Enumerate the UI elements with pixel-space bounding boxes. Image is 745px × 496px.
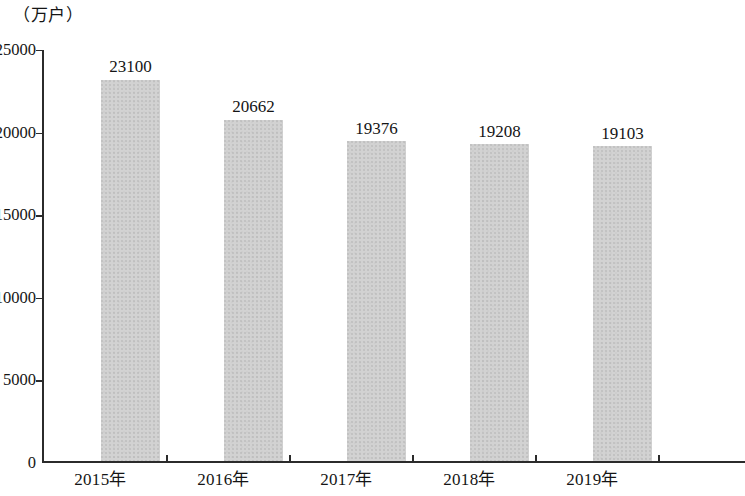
y-tick-label-25000: 25000: [0, 42, 36, 58]
y-tick-label-0: 0: [28, 455, 36, 471]
y-tick-label-20000: 20000: [0, 125, 36, 141]
bar-value-2016: 20662: [204, 98, 303, 116]
bar-value-2019: 19103: [573, 125, 672, 143]
x-category-label-2015: 2015年: [51, 470, 150, 490]
x-axis-line: [42, 461, 745, 463]
y-tick-label-5000: 5000: [3, 372, 36, 388]
y-tick-mark-25000: [36, 50, 43, 51]
bar-2019: [593, 146, 652, 462]
bar-2016: [224, 120, 283, 461]
y-axis-unit-label: （万户）: [13, 6, 83, 26]
y-tick-mark-5000: [36, 380, 43, 381]
y-tick-mark-15000: [36, 215, 43, 216]
bar-value-2017: 19376: [327, 120, 426, 138]
x-category-label-2018: 2018年: [420, 470, 519, 490]
plot-area: 23100 20662 19376 19208 19103: [42, 50, 745, 463]
bar-value-2015: 23100: [81, 58, 180, 76]
y-axis-tick-labels: 25000 20000 15000 10000 5000 0: [0, 50, 36, 463]
y-tick-mark-10000: [36, 298, 43, 299]
bar-value-2018: 19208: [450, 123, 549, 141]
y-tick-label-10000: 10000: [0, 290, 36, 306]
x-tick-mark-3: [412, 455, 414, 463]
x-category-label-2017: 2017年: [297, 470, 396, 490]
x-tick-mark-2: [289, 455, 291, 463]
bar-2015: [101, 80, 160, 462]
x-category-label-2016: 2016年: [174, 470, 273, 490]
x-tick-mark-4: [535, 455, 537, 463]
x-tick-mark-5: [658, 455, 660, 463]
bar-chart: （万户） 25000 20000 15000 10000 5000 0 2310…: [0, 0, 745, 496]
y-axis-line: [42, 50, 44, 463]
bar-2017: [347, 141, 406, 461]
y-tick-mark-20000: [36, 133, 43, 134]
x-tick-mark-1: [166, 455, 168, 463]
x-category-label-2019: 2019年: [543, 470, 642, 490]
bar-2018: [470, 144, 529, 461]
y-tick-label-15000: 15000: [0, 207, 36, 223]
